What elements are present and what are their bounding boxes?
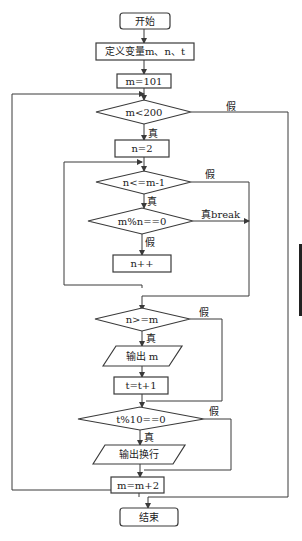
- node-cond-t-label: t%10==0: [116, 414, 165, 425]
- node-cond-mod: m%n==0: [88, 208, 193, 234]
- label-true-n: 真: [147, 195, 157, 207]
- node-inc-m: m=m+2: [111, 477, 164, 493]
- node-cond-m-label: m<200: [126, 107, 163, 118]
- node-output-newline-label: 输出换行: [119, 448, 159, 460]
- node-cond-t: t%10==0: [78, 407, 204, 430]
- node-inc-n: n++: [113, 255, 171, 272]
- flowchart-canvas: 开始 定义变量m、n、t m=101 m<200 n=2 n<=m-1 m%n=…: [0, 0, 302, 541]
- node-output-m: 输出 m: [103, 346, 182, 366]
- node-init-m-label: m=101: [126, 76, 163, 87]
- node-define-label: 定义变量m、n、t: [105, 45, 185, 57]
- node-cond-prime: n>=m: [95, 308, 190, 331]
- node-init-m: m=101: [117, 74, 171, 88]
- node-inc-t-label: t=t+1: [125, 380, 156, 391]
- label-false-n: 假: [205, 168, 215, 180]
- label-false-prime: 假: [199, 306, 209, 318]
- node-inc-n-label: n++: [130, 258, 153, 269]
- label-true-break: 真break: [201, 208, 241, 220]
- node-cond-n-label: n<=m-1: [123, 177, 165, 188]
- node-output-m-label: 输出 m: [126, 350, 159, 362]
- node-end: 结束: [120, 508, 178, 526]
- label-true-prime: 真: [146, 332, 156, 344]
- label-true-t: 真: [144, 431, 154, 443]
- page-edge-bar: [299, 244, 302, 316]
- label-true-m: 真: [148, 127, 158, 139]
- node-inc-m-label: m=m+2: [117, 480, 159, 491]
- label-false-mod: 假: [145, 236, 155, 248]
- node-end-label: 结束: [139, 511, 159, 523]
- node-init-n: n=2: [115, 140, 169, 157]
- label-false-m: 假: [226, 100, 236, 112]
- node-init-n-label: n=2: [131, 143, 152, 154]
- node-start-label: 开始: [135, 15, 155, 27]
- node-start: 开始: [120, 13, 170, 29]
- node-cond-mod-label: m%n==0: [118, 216, 167, 227]
- node-cond-m: m<200: [96, 100, 191, 124]
- label-false-t: 假: [209, 405, 219, 417]
- node-inc-t: t=t+1: [114, 377, 168, 394]
- node-define: 定义变量m、n、t: [96, 43, 194, 60]
- node-output-newline: 输出换行: [93, 445, 185, 464]
- node-cond-prime-label: n>=m: [126, 314, 159, 325]
- node-cond-n: n<=m-1: [96, 171, 191, 194]
